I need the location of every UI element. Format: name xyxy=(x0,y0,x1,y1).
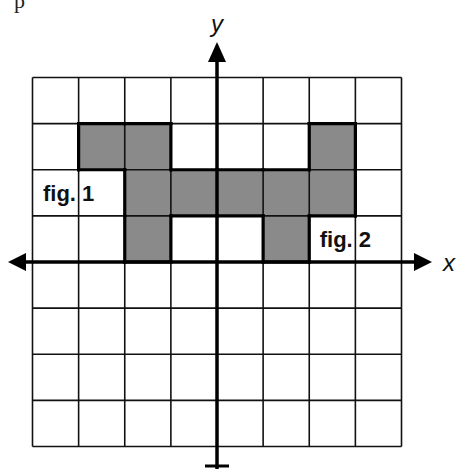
x-axis-left-arrow-icon xyxy=(8,253,26,271)
shaded-cell xyxy=(263,216,309,262)
figure-label-2: fig. 2 xyxy=(320,227,371,252)
shaded-cell xyxy=(309,124,355,170)
figure-label-1: fig. 1 xyxy=(43,181,94,206)
shaded-cell xyxy=(171,170,217,216)
x-axis-right-arrow-icon xyxy=(414,253,432,271)
y-axis-label: y xyxy=(209,10,225,37)
shaded-cell xyxy=(217,170,263,216)
shaded-cell xyxy=(125,170,171,216)
shaded-cell xyxy=(309,170,355,216)
y-axis-up-arrow-icon xyxy=(208,42,226,62)
shaded-cell xyxy=(79,124,125,170)
x-axis-label: x xyxy=(442,249,456,276)
shaded-cell xyxy=(125,124,171,170)
shaded-cell xyxy=(263,170,309,216)
coordinate-grid-diagram: xy fig. 1fig. 2 xyxy=(0,0,466,469)
shaded-cell xyxy=(125,216,171,262)
